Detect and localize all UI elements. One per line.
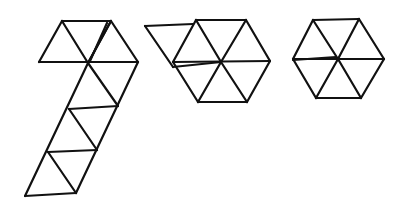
edge-line [48, 150, 97, 152]
edge-line [293, 59, 316, 98]
edge-line [221, 20, 246, 62]
triangle-strip [25, 21, 138, 196]
edge-line [361, 59, 384, 98]
edge-line [338, 59, 361, 98]
edge-line [111, 21, 138, 62]
edge-line [246, 20, 270, 61]
edge-line [313, 19, 359, 20]
edge-line [247, 61, 270, 102]
edge-line [62, 21, 88, 63]
edge-line [221, 62, 247, 102]
edge-line [69, 109, 97, 150]
edge-line [90, 23, 107, 61]
folding-diagram [0, 0, 404, 209]
edge-line [39, 21, 62, 62]
diagram-canvas [0, 0, 404, 209]
edge-line [173, 20, 196, 62]
edge-line [145, 26, 173, 67]
edge-line [145, 24, 193, 26]
edge-line [316, 59, 338, 98]
edge-line [88, 63, 118, 106]
edge-line [76, 62, 138, 193]
edge-line [359, 19, 384, 59]
edge-line [196, 20, 221, 62]
edge-line [48, 152, 76, 193]
edge-line [198, 62, 221, 102]
partially-folded-hexagon [145, 20, 270, 102]
edge-line [173, 62, 198, 102]
edge-line [338, 19, 359, 59]
edge-line [25, 193, 76, 196]
edge-line [25, 63, 88, 196]
edge-line [313, 20, 338, 59]
completed-hexagon [293, 19, 384, 98]
edge-line [293, 20, 313, 59]
edge-line [69, 106, 118, 109]
